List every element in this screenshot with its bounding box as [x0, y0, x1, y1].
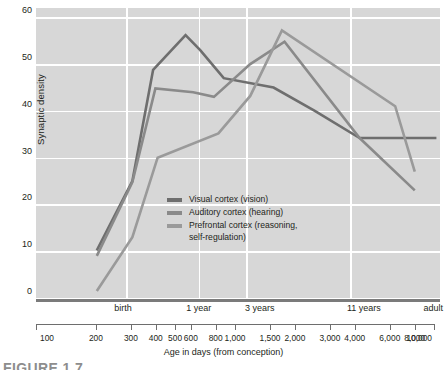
day-tick-1500 [270, 324, 271, 330]
x-axis-title: Age in days (from conception) [0, 347, 447, 357]
day-tick-2000 [295, 324, 296, 330]
chart-legend: Visual cortex (vision) Auditory cortex (… [167, 194, 297, 245]
milestone-birth: birth [114, 303, 132, 313]
plot-area: Synaptic density 0102030405060 Visual co… [36, 8, 440, 298]
day-label-4000: 4,000 [344, 333, 365, 343]
day-tick-4000 [355, 324, 356, 330]
day-label-300: 300 [124, 333, 138, 343]
day-label-800: 800 [209, 333, 223, 343]
legend-label-prefrontal: Prefrontal cortex (reasoning, self-regul… [189, 220, 297, 243]
y-tick-40: 40 [14, 100, 32, 109]
day-label-1000: 1,000 [225, 333, 246, 343]
milestone-1-year: 1 year [186, 303, 211, 313]
legend-swatch-auditory [167, 211, 182, 215]
day-label-10000: 10,000 [406, 333, 432, 343]
milestone-11-years: 11 years [347, 303, 381, 313]
day-axis [36, 324, 434, 332]
day-label-500: 500 [168, 333, 182, 343]
legend-label-auditory: Auditory cortex (hearing) [189, 207, 283, 219]
day-tick-100 [36, 324, 37, 330]
y-tick-20: 20 [14, 193, 32, 202]
day-label-200: 200 [89, 333, 103, 343]
milestone-3-years: 3 years [245, 303, 275, 313]
day-tick-10000 [434, 324, 435, 330]
legend-label-visual: Visual cortex (vision) [189, 194, 268, 206]
day-tick-6000 [390, 324, 391, 330]
legend-item-auditory: Auditory cortex (hearing) [167, 207, 297, 219]
series-lines [36, 8, 440, 298]
legend-item-prefrontal: Prefrontal cortex (reasoning, self-regul… [167, 220, 297, 243]
day-tick-300 [131, 324, 132, 330]
figure-container: Synaptic density 0102030405060 Visual co… [0, 0, 447, 370]
legend-item-visual: Visual cortex (vision) [167, 194, 297, 206]
day-tick-1000 [235, 324, 236, 330]
legend-label-prefrontal-line1: Prefrontal cortex (reasoning, [189, 220, 297, 230]
figure-caption: FIGURE 1.7 [3, 360, 83, 370]
day-label-400: 400 [149, 333, 163, 343]
day-label-600: 600 [184, 333, 198, 343]
day-label-3000: 3,000 [319, 333, 340, 343]
day-tick-8000 [415, 324, 416, 330]
y-tick-50: 50 [14, 53, 32, 62]
milestone-axis-line [36, 299, 440, 302]
legend-swatch-visual [167, 198, 182, 202]
day-label-2000: 2,000 [284, 333, 305, 343]
day-tick-600 [191, 324, 192, 330]
milestone-adult: adult [423, 303, 443, 313]
day-tick-500 [175, 324, 176, 330]
day-tick-3000 [330, 324, 331, 330]
y-tick-10: 10 [14, 240, 32, 249]
day-tick-800 [216, 324, 217, 330]
day-tick-200 [96, 324, 97, 330]
legend-label-prefrontal-line2: self-regulation) [189, 232, 246, 242]
day-label-100: 100 [40, 333, 54, 343]
series-line-2 [97, 30, 415, 291]
day-label-1500: 1,500 [260, 333, 281, 343]
y-tick-60: 60 [14, 6, 32, 15]
day-tick-400 [156, 324, 157, 330]
y-tick-30: 30 [14, 147, 32, 156]
legend-swatch-prefrontal [167, 224, 182, 228]
y-tick-0: 0 [14, 287, 32, 296]
day-label-6000: 6,000 [379, 333, 400, 343]
